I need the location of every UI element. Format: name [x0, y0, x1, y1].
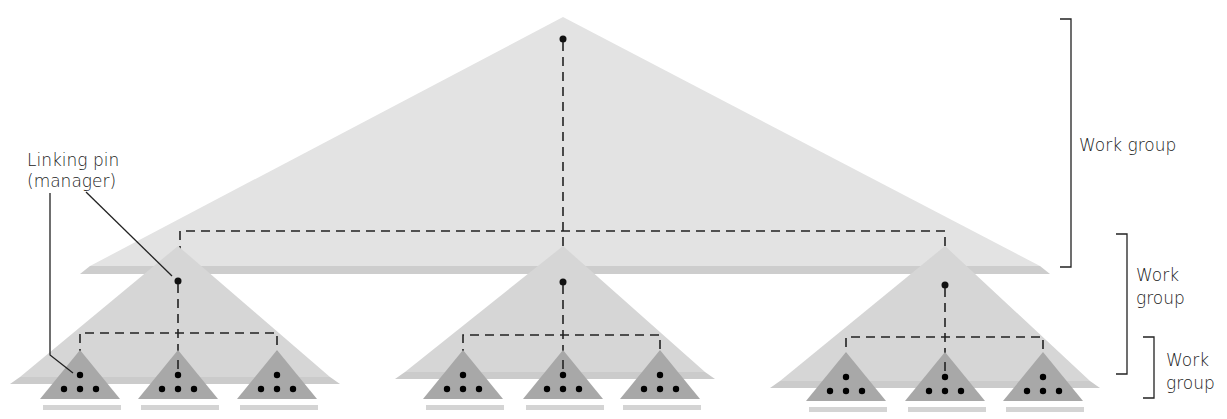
mid-manager-dot — [560, 279, 567, 286]
work-group-bottom-label-line2: group — [1166, 373, 1215, 394]
top-manager-dot — [560, 36, 567, 43]
top-work-group — [80, 17, 1050, 285]
work-group-mid-label-line1: Work — [1136, 265, 1179, 286]
work-group-bottom-label-line1: Work — [1166, 350, 1209, 371]
work-group-top-label: Work group — [1079, 135, 1176, 156]
mid-manager-dot — [942, 282, 949, 289]
top-triangle — [90, 17, 1040, 266]
linking-pin-label: Linking pin — [27, 150, 119, 171]
mid-manager-dot — [175, 278, 182, 285]
work-group-top-bracket — [1060, 19, 1071, 267]
linking-pin-diagram — [0, 0, 1227, 419]
linking-pin-sublabel: (manager) — [27, 171, 116, 192]
work-group-mid-bracket — [1116, 234, 1127, 374]
work-group-bottom-bracket — [1143, 337, 1154, 398]
work-group-mid-label-line2: group — [1136, 288, 1185, 309]
